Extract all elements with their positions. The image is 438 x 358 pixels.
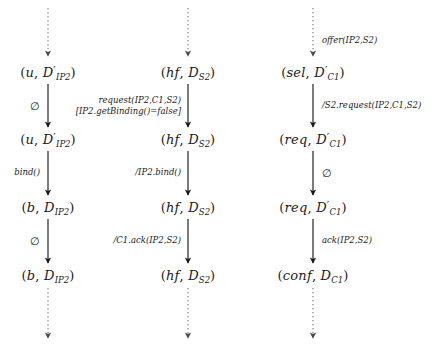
state-u-d-ip2-2: (u, D′IP2) — [20, 132, 76, 147]
transition-ack-label: ack(IP2,S2) — [322, 235, 372, 246]
transition-empty-3-label: ∅ — [322, 166, 332, 180]
transition-c1-ack-label: /C1.ack(IP2,S2) — [113, 235, 181, 246]
state-b-d-ip2-1: (b, DIP2) — [22, 200, 75, 215]
state-sel-d-c1: (sel, D′C1) — [281, 65, 345, 80]
transition-bind-label: bind() — [14, 167, 40, 178]
transition-ip2-bind-label: /IP2.bind() — [135, 167, 181, 178]
transition-empty-1-label: ∅ — [30, 98, 40, 112]
transition-empty-2-label: ∅ — [30, 234, 40, 248]
state-conf-d-c1: (conf, DC1) — [278, 268, 349, 283]
state-hf-d-s2-2: (hf, DS2) — [161, 132, 216, 147]
state-hf-d-s2-3: (hf, DS2) — [161, 200, 216, 215]
transition-s2-request-label: /S2.request(IP2,C1,S2) — [322, 100, 421, 111]
c1-lifeline-entry-label: offer(IP2,S2) — [322, 35, 377, 46]
arrow-layer — [0, 0, 438, 358]
state-hf-d-s2-4: (hf, DS2) — [161, 268, 216, 283]
state-lifeline-diagram: ∅bind()∅(u, D′IP2)(u, D′IP2)(b, DIP2)(b,… — [0, 0, 438, 358]
state-b-d-ip2-2: (b, DIP2) — [22, 268, 75, 283]
state-u-d-ip2-1: (u, D′IP2) — [20, 65, 76, 80]
state-req-d-c1-1: (req, D′C1) — [279, 132, 346, 147]
transition-request-guard-label: request(IP2,C1,S2)[IP2.getBinding()=fals… — [76, 94, 181, 117]
state-req-d-c1-2: (req, D′C1) — [279, 200, 346, 215]
state-hf-d-s2-1: (hf, DS2) — [161, 65, 216, 80]
